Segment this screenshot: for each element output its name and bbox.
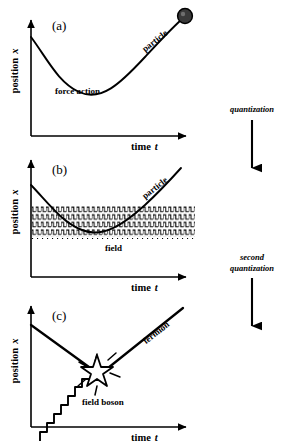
panel-c-x-axis-label-text: time xyxy=(131,432,151,442)
panel-b-field-label: field xyxy=(105,243,122,253)
panel-c-tag: (c) xyxy=(52,308,66,324)
panel-b-x-axis-label: time t xyxy=(131,277,158,295)
panel-b-y-axis-label: position x xyxy=(4,177,22,247)
panel-a-tag: (a) xyxy=(52,18,66,34)
panel-c-field-boson-line xyxy=(40,379,89,441)
panel-a-particle-marker xyxy=(178,9,193,24)
panel-c-y-axis-label: position x xyxy=(4,326,22,396)
panel-b-y-axis-label-text: position xyxy=(9,199,20,235)
panel-b-tag: (b) xyxy=(52,162,67,178)
panel-a-y-axis-label: position x xyxy=(4,36,22,106)
second-quantization-label-line1: second xyxy=(208,252,295,262)
panel-a-force-action-label: force action xyxy=(55,86,100,96)
panel-c-vertex-starburst xyxy=(78,353,120,395)
figure-canvas xyxy=(0,0,295,442)
panel-a-y-axis-variable: x xyxy=(9,49,20,54)
panel-a-particle-highlight xyxy=(181,12,185,16)
second-quantization-label-line2: quantization xyxy=(208,263,295,273)
panel-a-x-axis-variable: t xyxy=(155,141,158,152)
panel-a-x-axis-label: time t xyxy=(131,136,158,154)
panel-a-x-axis-label-text: time xyxy=(131,141,151,152)
panel-c-y-axis-variable: x xyxy=(9,339,20,344)
panel-b-x-axis-variable: t xyxy=(155,282,158,293)
panel-b-x-axis-label-text: time xyxy=(131,282,151,293)
physics-worldline-figure: (a) position x time t particle force act… xyxy=(0,0,295,442)
panel-c-x-axis-label: time t xyxy=(131,427,158,442)
quantization-label: quantization xyxy=(208,104,295,114)
panel-b-field-texture xyxy=(32,206,195,236)
panel-b-field-region xyxy=(32,206,195,239)
panel-c-x-axis-variable: t xyxy=(155,432,158,442)
panel-b-y-axis-variable: x xyxy=(9,190,20,195)
panel-c-field-boson-label: field boson xyxy=(82,397,124,407)
panel-a-y-axis-label-text: position xyxy=(9,58,20,94)
panel-c-y-axis-label-text: position xyxy=(9,348,20,384)
